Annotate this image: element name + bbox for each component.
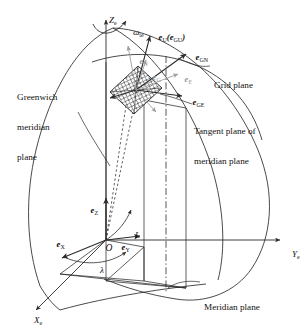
leader-greenwich (78, 112, 110, 166)
x-axis-label: Xe (25, 306, 42, 330)
y-axis-label: Ye (283, 240, 300, 270)
earth-rate-label: ωie (124, 18, 144, 48)
callout-line: Grid plane (214, 81, 253, 91)
e-x-label: eX (48, 231, 65, 260)
e-g-label: eG (144, 64, 161, 93)
tangent-plane-callout: Tangent plane of meridian plane (194, 107, 256, 187)
dashed-to-grid-plane-2 (106, 92, 128, 240)
grid-plane-callout: Grid plane (214, 61, 253, 111)
e-z-label: eZ (82, 197, 98, 226)
e-e-label: eE (176, 66, 192, 95)
z-axis-label: Ze (100, 6, 117, 36)
callout-line: meridian (17, 123, 57, 133)
e-y-label: eY (113, 234, 130, 263)
callout-line: Meridian plane (204, 303, 260, 313)
figure-canvas: Ze Ye Xe ωie O λ L eZ eX eY eU(eGU) eGN … (0, 0, 306, 330)
callout-line: Greenwich (17, 93, 57, 103)
callout-line: meridian plane (194, 157, 256, 167)
e-u-egu-label: eU(eGU) (150, 24, 185, 53)
callout-line: plane (17, 153, 57, 163)
callout-line: Tangent plane of (194, 127, 256, 137)
tangent-top-edge (144, 100, 186, 108)
greenwich-meridian-plane-callout: Greenwich meridian plane (17, 73, 57, 182)
meridian-plane-callout: Meridian plane (204, 283, 260, 330)
longitude-label: λ (91, 256, 104, 285)
